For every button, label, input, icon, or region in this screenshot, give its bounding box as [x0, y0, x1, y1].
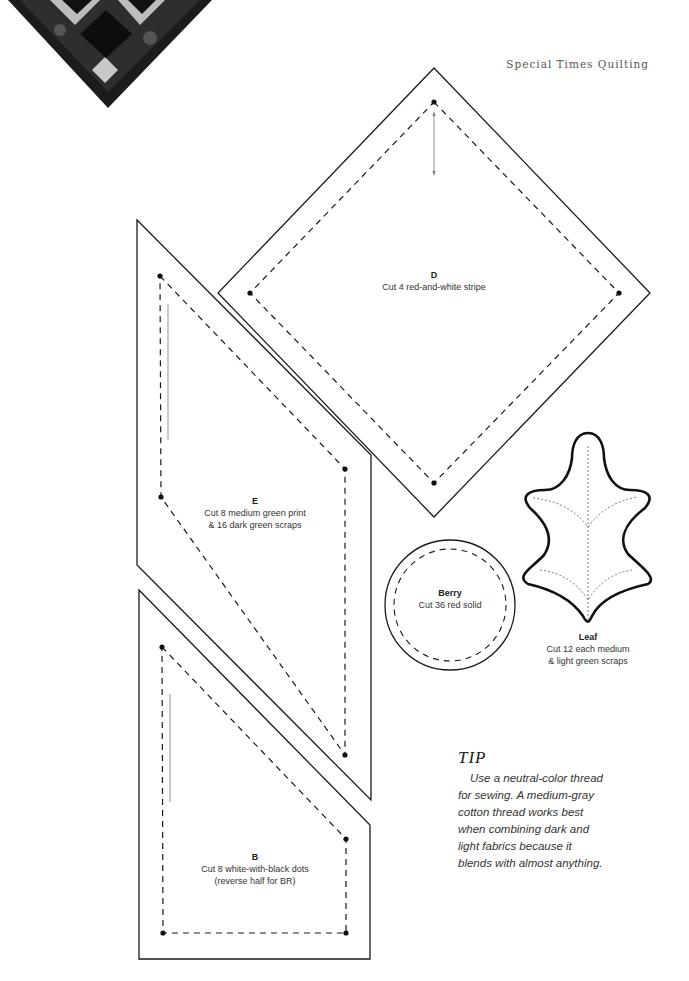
template-b-instructions-line2: (reverse half for BR): [150, 875, 360, 887]
template-berry-instructions: Cut 36 red solid: [418, 600, 481, 610]
tip-box: TIP Use a neutral-color thread for sewin…: [458, 748, 608, 872]
template-d-label: D Cut 4 red-and-white stripe: [334, 269, 534, 293]
template-b-label: B Cut 8 white-with-black dots (reverse h…: [150, 851, 360, 887]
template-e-label: E Cut 8 medium green print & 16 dark gre…: [150, 495, 360, 531]
tip-body: Use a neutral-color thread for sewing. A…: [458, 770, 608, 872]
template-leaf-name: Leaf: [520, 631, 656, 643]
book-title: Special Times Quilting: [506, 58, 649, 70]
template-d-name: D: [334, 269, 534, 281]
template-e-instructions-line2: & 16 dark green scraps: [150, 519, 360, 531]
template-berry-name: Berry: [390, 587, 510, 599]
template-leaf-shape: [523, 433, 651, 622]
template-d-instructions: Cut 4 red-and-white stripe: [382, 282, 486, 292]
template-leaf-label: Leaf Cut 12 each medium & light green sc…: [520, 631, 656, 667]
template-leaf-instructions-line2: & light green scraps: [520, 655, 656, 667]
template-b-shape: [139, 590, 370, 959]
quilt-corner-thumbnail: [8, 0, 212, 108]
pattern-page: Special Times Quilting D Cut 4 red-and-w…: [0, 0, 689, 981]
template-b-name: B: [150, 851, 360, 863]
template-leaf-instructions-line1: Cut 12 each medium: [520, 643, 656, 655]
template-b-instructions-line1: Cut 8 white-with-black dots: [150, 863, 360, 875]
tip-title: TIP: [458, 748, 608, 768]
template-berry-label: Berry Cut 36 red solid: [390, 587, 510, 611]
template-e-instructions-line1: Cut 8 medium green print: [150, 507, 360, 519]
template-e-name: E: [150, 495, 360, 507]
